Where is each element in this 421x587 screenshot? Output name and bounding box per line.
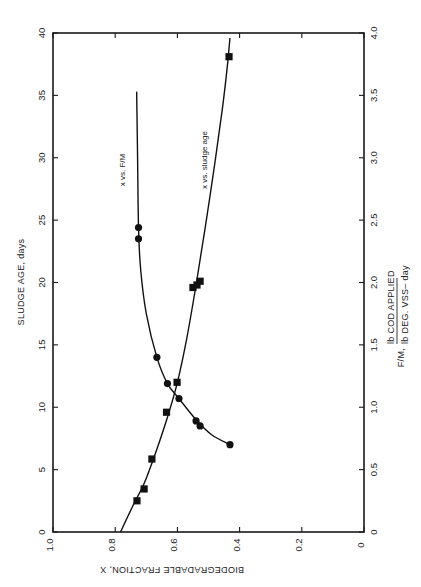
bottom-tick-label: 0 bbox=[355, 542, 366, 547]
data-point-square bbox=[148, 455, 155, 462]
left-tick-label: 0 bbox=[36, 529, 47, 534]
data-point-square bbox=[133, 497, 140, 504]
left-tick-label: 15 bbox=[36, 340, 47, 351]
right-tick-label: 3.5 bbox=[368, 89, 379, 102]
left-tick-label: 20 bbox=[36, 277, 47, 288]
left-axis-title: SLUDGE AGE, days bbox=[16, 238, 26, 325]
right-tick-label: 1.0 bbox=[368, 401, 379, 414]
data-point-circle bbox=[164, 380, 171, 387]
bottom-tick-label: 1.0 bbox=[44, 538, 55, 551]
right-axis-prefix: F/M, bbox=[396, 348, 406, 367]
axis-ticks bbox=[53, 33, 364, 532]
bottom-tick-label: 0.8 bbox=[106, 538, 117, 551]
right-axis-title: F/M, lb COD APPLIED lb DEG. VSS– day bbox=[386, 265, 410, 367]
data-point-square bbox=[197, 278, 204, 285]
right-axis-numerator: lb COD APPLIED bbox=[386, 270, 396, 344]
bottom-tick-label: 0.4 bbox=[231, 538, 242, 551]
bottom-tick-label: 0.6 bbox=[168, 538, 179, 551]
right-tick-label: 0.5 bbox=[368, 463, 379, 476]
right-tick-label: 0 bbox=[368, 529, 379, 534]
bottom-axis-title: BIODEGRADABLE FRACTION, X bbox=[100, 565, 244, 575]
data-point-square bbox=[173, 379, 180, 386]
fit-curves bbox=[120, 38, 229, 532]
data-point-square bbox=[225, 53, 232, 60]
right-tick-label: 2.5 bbox=[368, 214, 379, 227]
left-tick-label: 5 bbox=[36, 467, 47, 472]
bottom-tick-label: 0.2 bbox=[293, 538, 304, 551]
right-tick-label: 1.5 bbox=[368, 338, 379, 351]
data-point-square bbox=[141, 485, 148, 492]
right-tick-label: 4.0 bbox=[368, 26, 379, 39]
plot-frame bbox=[53, 33, 364, 532]
series-label-fm: x vs. F/M bbox=[118, 153, 127, 186]
data-point-square bbox=[163, 409, 170, 416]
axis-labels: 051015202530354000.51.01.52.02.53.03.54.… bbox=[36, 26, 379, 551]
biodegradable-fraction-chart: 051015202530354000.51.01.52.02.53.03.54.… bbox=[0, 0, 421, 587]
right-tick-label: 3.0 bbox=[368, 151, 379, 164]
left-tick-label: 10 bbox=[36, 402, 47, 413]
left-tick-label: 30 bbox=[36, 152, 47, 163]
right-axis-denominator: lb DEG. VSS– day bbox=[400, 265, 410, 344]
data-markers bbox=[133, 53, 233, 504]
plot-border bbox=[53, 33, 364, 532]
series-label-sludge-age: x vs. sludge age bbox=[200, 131, 209, 189]
data-point-circle bbox=[226, 441, 233, 448]
data-point-circle bbox=[135, 224, 142, 231]
data-point-circle bbox=[197, 422, 204, 429]
data-point-circle bbox=[175, 395, 182, 402]
left-tick-label: 40 bbox=[36, 28, 47, 39]
right-tick-label: 2.0 bbox=[368, 276, 379, 289]
data-point-circle bbox=[135, 235, 142, 242]
fit-curve-fm bbox=[137, 92, 230, 445]
data-point-circle bbox=[153, 354, 160, 361]
left-tick-label: 25 bbox=[36, 215, 47, 226]
left-tick-label: 35 bbox=[36, 90, 47, 101]
